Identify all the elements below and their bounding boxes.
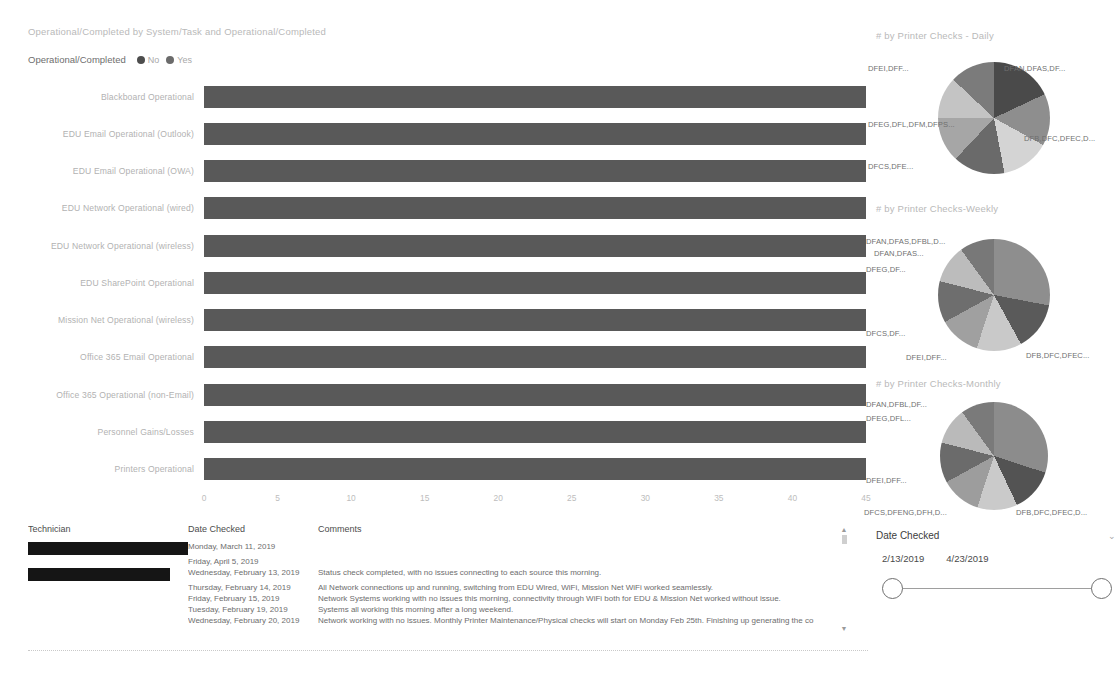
category-label[interactable]: Mission Net Operational (wireless) bbox=[28, 302, 200, 339]
cell-technician bbox=[28, 582, 188, 593]
pie-weekly-title: # by Printer Checks-Weekly bbox=[876, 203, 1116, 214]
category-label[interactable]: EDU SharePoint Operational bbox=[28, 264, 200, 301]
category-label[interactable]: EDU Network Operational (wired) bbox=[28, 190, 200, 227]
cell-technician bbox=[28, 556, 188, 567]
table-row[interactable]: Thursday, February 14, 2019All Network c… bbox=[28, 582, 866, 593]
slicer-rail[interactable] bbox=[882, 578, 1112, 600]
bar-segment[interactable] bbox=[204, 235, 866, 257]
cell-date-checked: Friday, April 5, 2019 bbox=[188, 556, 318, 567]
bar-row bbox=[204, 413, 866, 450]
cell-technician bbox=[28, 567, 188, 582]
pie-slice-label: DFEI,DFF... bbox=[866, 476, 907, 485]
table-scrollbar[interactable]: ▲ ▼ bbox=[838, 524, 850, 638]
slicer-values: 2/13/2019 4/23/2019 bbox=[876, 545, 1116, 574]
pie-slice-label: DFAN,DFAS,DF... bbox=[1004, 64, 1065, 73]
table-row[interactable]: Friday, February 15, 2019Network Systems… bbox=[28, 593, 866, 604]
table-row[interactable]: Wednesday, February 13, 2019Status check… bbox=[28, 567, 866, 582]
table-row[interactable]: Friday, April 5, 2019 bbox=[28, 556, 866, 567]
table-header-row: Technician Date Checked Comments bbox=[28, 524, 866, 541]
cell-date-checked: Monday, March 11, 2019 bbox=[188, 541, 318, 556]
pie-slice-label: DFEG,DFL,DFM,DFPS... bbox=[868, 120, 955, 129]
legend-swatch-yes bbox=[166, 56, 174, 64]
slicer-start-date[interactable]: 2/13/2019 bbox=[882, 553, 924, 564]
category-label[interactable]: Blackboard Operational bbox=[28, 78, 200, 115]
column-header-technician[interactable]: Technician bbox=[28, 524, 188, 541]
axis-tick-label: 30 bbox=[641, 493, 650, 503]
legend-item-no[interactable]: No bbox=[137, 55, 160, 65]
column-header-date-checked[interactable]: Date Checked bbox=[188, 524, 318, 541]
scroll-down-arrow[interactable]: ▼ bbox=[838, 625, 850, 632]
cell-technician bbox=[28, 604, 188, 615]
bar-plot-area: Blackboard OperationalEDU Email Operatio… bbox=[28, 78, 866, 518]
bar-row bbox=[204, 227, 866, 264]
pie-slice-label: DFEG,DF... bbox=[866, 265, 906, 274]
bar-row bbox=[204, 78, 866, 115]
pie-slice-label: DFAN,DFAS... bbox=[874, 249, 924, 258]
cell-date-checked: Tuesday, February 19, 2019 bbox=[188, 604, 318, 615]
legend-label-no: No bbox=[148, 55, 160, 65]
pie-slice-label: DFEG,DFL... bbox=[866, 414, 911, 423]
slicer-handle-start[interactable] bbox=[882, 578, 903, 599]
page-bottom-divider bbox=[28, 650, 868, 651]
bar-row bbox=[204, 339, 866, 376]
category-label[interactable]: EDU Email Operational (OWA) bbox=[28, 153, 200, 190]
axis-tick-label: 0 bbox=[202, 493, 207, 503]
cell-comments: Systems all working this morning after a… bbox=[318, 604, 866, 615]
bar-segment[interactable] bbox=[204, 309, 866, 331]
column-header-comments[interactable]: Comments bbox=[318, 524, 866, 541]
cell-comments: All Network connections up and running, … bbox=[318, 582, 866, 593]
pie-slices[interactable] bbox=[940, 402, 1048, 510]
technician-log-table[interactable]: Technician Date Checked Comments Monday,… bbox=[28, 524, 866, 642]
bar-segment[interactable] bbox=[204, 458, 866, 480]
bar-segment[interactable] bbox=[204, 384, 866, 406]
date-checked-slicer[interactable]: Date Checked ⌄ 2/13/2019 4/23/2019 bbox=[876, 530, 1116, 626]
pie-slices[interactable] bbox=[938, 239, 1050, 351]
category-label[interactable]: EDU Email Operational (Outlook) bbox=[28, 115, 200, 152]
bar-chart-visual: Operational/Completed by System/Task and… bbox=[28, 26, 866, 518]
category-label[interactable]: Printers Operational bbox=[28, 451, 200, 488]
pie-slice-label: DFB,DFC,DFEC,D... bbox=[1016, 508, 1087, 517]
legend-swatch-no bbox=[137, 56, 145, 64]
category-label[interactable]: Office 365 Email Operational bbox=[28, 339, 200, 376]
bar-row bbox=[204, 115, 866, 152]
bar-segment[interactable] bbox=[204, 421, 866, 443]
bars-container bbox=[204, 78, 866, 488]
bar-chart-legend: Operational/Completed No Yes bbox=[28, 54, 192, 65]
bar-row bbox=[204, 451, 866, 488]
category-label[interactable]: EDU Network Operational (wireless) bbox=[28, 227, 200, 264]
pie-chart-monthly: # by Printer Checks-Monthly DFAN,DFBL,DF… bbox=[876, 378, 1116, 528]
bar-segment[interactable] bbox=[204, 160, 866, 182]
category-label[interactable]: Personnel Gains/Losses bbox=[28, 413, 200, 450]
bar-segment[interactable] bbox=[204, 86, 866, 108]
value-axis: 051015202530354045 bbox=[204, 488, 866, 512]
slicer-handle-end[interactable] bbox=[1091, 578, 1112, 599]
axis-tick-label: 20 bbox=[494, 493, 503, 503]
bar-segment[interactable] bbox=[204, 123, 866, 145]
bar-segment[interactable] bbox=[204, 197, 866, 219]
pie-monthly-title: # by Printer Checks-Monthly bbox=[876, 378, 1116, 389]
table-row[interactable]: Wednesday, February 20, 2019Network work… bbox=[28, 615, 866, 626]
pie-slice-label: DFAN,DFAS,DFBL,D... bbox=[866, 237, 946, 246]
bar-segment[interactable] bbox=[204, 272, 866, 294]
table-row[interactable]: Monday, March 11, 2019 bbox=[28, 541, 866, 556]
pie-daily-title: # by Printer Checks - Daily bbox=[876, 30, 1116, 41]
axis-tick-label: 45 bbox=[861, 493, 870, 503]
bar-segment[interactable] bbox=[204, 346, 866, 368]
table-row[interactable]: Tuesday, February 19, 2019Systems all wo… bbox=[28, 604, 866, 615]
legend-label-yes: Yes bbox=[177, 55, 192, 65]
cell-date-checked: Wednesday, February 13, 2019 bbox=[188, 567, 318, 582]
pie-slices[interactable] bbox=[938, 62, 1050, 174]
scroll-up-arrow[interactable]: ▲ bbox=[838, 526, 850, 533]
redaction-bar bbox=[28, 542, 188, 555]
cell-date-checked: Thursday, February 14, 2019 bbox=[188, 582, 318, 593]
bar-row bbox=[204, 264, 866, 301]
legend-item-yes[interactable]: Yes bbox=[166, 55, 192, 65]
pie-slice-label: DFCS,DFE... bbox=[868, 162, 913, 171]
legend-title: Operational/Completed bbox=[28, 54, 126, 65]
category-label[interactable]: Office 365 Operational (non-Email) bbox=[28, 376, 200, 413]
scroll-thumb[interactable] bbox=[842, 535, 847, 544]
cell-comments bbox=[318, 556, 866, 567]
axis-tick-label: 25 bbox=[567, 493, 576, 503]
chevron-down-icon[interactable]: ⌄ bbox=[1108, 531, 1116, 541]
slicer-end-date[interactable]: 4/23/2019 bbox=[946, 553, 988, 564]
